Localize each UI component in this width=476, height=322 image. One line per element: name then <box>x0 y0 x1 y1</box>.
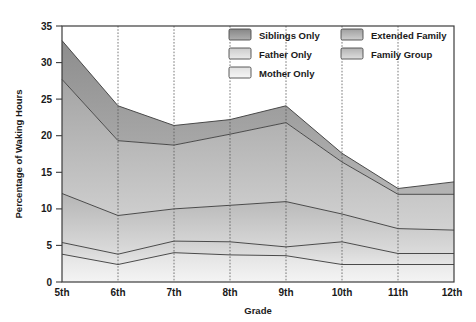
legend-item-siblings-only[interactable]: Siblings Only <box>229 29 320 41</box>
y-tick-label-0: 0 <box>46 277 52 288</box>
y-tick-label-35: 35 <box>41 21 53 32</box>
legend-label-family-group: Family Group <box>371 49 432 60</box>
legend-label-father-only: Father Only <box>259 49 313 60</box>
y-tick-label-30: 30 <box>41 57 53 68</box>
y-tick-label-15: 15 <box>41 167 53 178</box>
legend-label-extended-family: Extended Family <box>371 30 447 41</box>
y-axis-title: Percentage of Waking Hours <box>13 90 24 219</box>
legend-item-father-only[interactable]: Father Only <box>229 48 313 60</box>
legend-label-siblings-only: Siblings Only <box>259 30 320 41</box>
legend-label-mother-only: Mother Only <box>259 68 315 79</box>
legend-item-mother-only[interactable]: Mother Only <box>229 67 315 79</box>
x-tick-label-9th: 9th <box>279 287 294 298</box>
x-axis-title: Grade <box>244 305 271 316</box>
x-tick-label-7th: 7th <box>167 287 182 298</box>
chart-canvas: 35 30 25 20 15 10 5 0 Percentage of Waki… <box>0 0 476 322</box>
x-tick-label-10th: 10th <box>332 287 353 298</box>
x-tick-label-8th: 8th <box>223 287 238 298</box>
legend-swatch-mother-only <box>229 67 251 78</box>
x-tick-label-5th: 5th <box>55 287 70 298</box>
y-tick-label-10: 10 <box>41 203 53 214</box>
legend-item-family-group[interactable]: Family Group <box>341 48 432 60</box>
x-tick-label-6th: 6th <box>111 287 126 298</box>
legend-swatch-extended-family <box>341 29 363 40</box>
legend-swatch-father-only <box>229 48 251 59</box>
x-tick-label-11th: 11th <box>388 287 408 298</box>
legend-item-extended-family[interactable]: Extended Family <box>341 29 447 41</box>
y-tick-label-5: 5 <box>46 240 52 251</box>
y-tick-label-20: 20 <box>41 130 53 141</box>
x-tick-label-12th: 12th <box>442 287 463 298</box>
legend-swatch-siblings-only <box>229 29 251 40</box>
y-tick-label-25: 25 <box>41 94 53 105</box>
stacked-area-chart: 35 30 25 20 15 10 5 0 Percentage of Waki… <box>0 0 476 322</box>
legend-swatch-family-group <box>341 48 363 59</box>
